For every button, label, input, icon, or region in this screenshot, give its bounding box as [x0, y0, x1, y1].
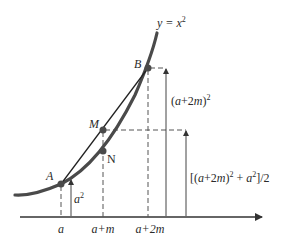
label-b: B [134, 57, 142, 71]
diagram-canvas: y = x2 A B M N a2 (a+2m)2 [(a+2m)2 + a2]… [0, 0, 285, 244]
label-n: N [107, 152, 116, 166]
label-a: A [45, 169, 54, 183]
point-a [58, 181, 65, 188]
tick-label-a: a [58, 222, 64, 236]
point-n [100, 148, 107, 155]
tick-label-a-plus-m: a+m [92, 222, 115, 236]
label-a-squared: a2 [74, 191, 84, 206]
chord-ab [61, 68, 148, 184]
label-b-height: (a+2m)2 [171, 93, 210, 108]
tick-label-a-plus-2m: a+2m [136, 222, 165, 236]
label-m-height: [(a+2m)2 + a2]/2 [190, 170, 270, 185]
point-m [100, 127, 107, 134]
label-m: M [88, 117, 100, 131]
point-b [145, 65, 152, 72]
curve-label: y = x2 [156, 15, 186, 30]
